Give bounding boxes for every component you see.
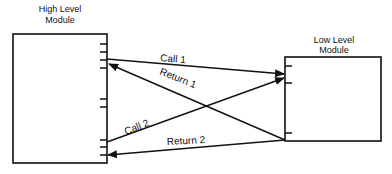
high-module-box: [13, 34, 107, 163]
high-level-module: High Level Module: [13, 4, 107, 163]
high-module-title-line1: High Level: [39, 4, 82, 14]
low-module-box: [285, 57, 381, 141]
low-module-title-line2: Module: [319, 45, 349, 55]
return-2-label: Return 2: [167, 134, 206, 147]
low-level-module: Low Level Module: [285, 35, 381, 141]
return-2-arrow: Return 2: [108, 134, 285, 155]
return-1-label: Return 1: [158, 66, 198, 91]
call-2-arrow: Call 2: [107, 78, 284, 142]
call-1-label: Call 1: [160, 52, 187, 65]
high-module-title-line2: Module: [45, 15, 75, 25]
call-2-label: Call 2: [123, 117, 151, 137]
low-module-title-line1: Low Level: [314, 35, 355, 45]
call-return-diagram: High Level Module Low Level Module Call …: [0, 0, 392, 174]
call-1-arrow: Call 1: [107, 52, 284, 74]
